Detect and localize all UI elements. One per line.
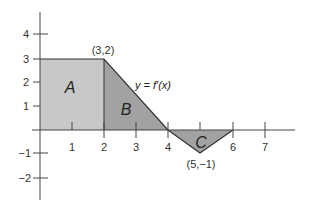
function-label: y = f′(x)	[134, 79, 171, 91]
point-label-bottom: (5,−1)	[186, 158, 215, 170]
y-tick-3: 3	[23, 53, 29, 65]
y-tick-2: 2	[23, 76, 29, 88]
y-tick-neg1: −1	[18, 147, 31, 159]
y-tick-neg2: −2	[18, 172, 31, 184]
x-tick-1: 1	[69, 141, 75, 153]
region-c-label: C	[195, 134, 207, 151]
x-tick-3: 3	[133, 141, 139, 153]
point-label-top: (3,2)	[92, 44, 115, 56]
region-b-label: B	[121, 101, 132, 118]
y-tick-4: 4	[23, 28, 29, 40]
x-tick-7: 7	[262, 141, 268, 153]
x-tick-2: 2	[101, 141, 107, 153]
x-tick-6: 6	[230, 141, 236, 153]
y-tick-1: 1	[23, 100, 29, 112]
graph: 1 2 3 4 6 7 4 3 2 1 −1 −2 A B C (3,2) (5…	[0, 0, 311, 214]
x-tick-4: 4	[165, 141, 171, 153]
region-a-label: A	[64, 79, 76, 96]
